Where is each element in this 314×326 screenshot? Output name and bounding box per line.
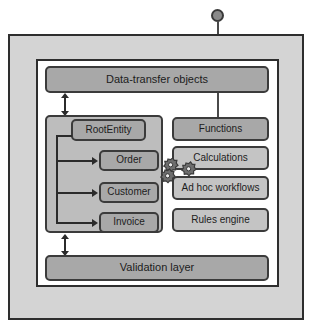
data-transfer-objects-box[interactable]: Data-transfer objects <box>45 66 269 93</box>
dto-entity-arrow-up <box>61 93 69 98</box>
entity-trunk-horizontal <box>56 135 72 137</box>
validation-layer-box[interactable]: Validation layer <box>45 255 269 281</box>
customer-label: Customer <box>107 187 150 198</box>
customer-branch-line <box>56 192 93 194</box>
invoice-branch-line <box>56 222 93 224</box>
architecture-diagram: Data-transfer objects RootEntity Order C… <box>0 0 314 326</box>
order-box[interactable]: Order <box>99 150 159 171</box>
gears-icon <box>156 158 200 188</box>
entity-trunk-vertical <box>56 135 58 224</box>
invoice-box[interactable]: Invoice <box>99 212 159 233</box>
calculations-label: Calculations <box>193 153 247 164</box>
root-entity-label: RootEntity <box>85 125 131 136</box>
functions-label: Functions <box>199 124 242 135</box>
invoice-label: Invoice <box>113 217 145 228</box>
order-label: Order <box>116 155 142 166</box>
validation-layer-label: Validation layer <box>120 262 194 274</box>
customer-branch-arrow <box>92 189 98 197</box>
functions-box[interactable]: Functions <box>172 117 269 141</box>
invoice-branch-arrow <box>92 219 98 227</box>
entity-validation-connector <box>64 238 66 252</box>
data-transfer-objects-label: Data-transfer objects <box>106 74 208 86</box>
root-entity-box[interactable]: RootEntity <box>71 119 146 141</box>
customer-box[interactable]: Customer <box>99 182 159 203</box>
dto-entity-connector <box>64 97 66 112</box>
rules-engine-box[interactable]: Rules engine <box>172 208 269 232</box>
order-branch-arrow <box>92 157 98 165</box>
entity-validation-arrow-up <box>61 234 69 239</box>
rules-engine-label: Rules engine <box>191 215 249 226</box>
order-branch-line <box>56 160 93 162</box>
